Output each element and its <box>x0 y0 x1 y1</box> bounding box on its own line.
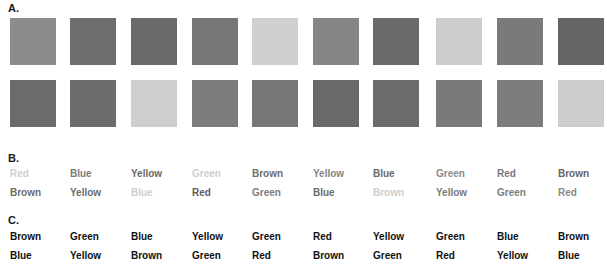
color-patch <box>252 18 298 65</box>
color-patch <box>10 80 56 127</box>
color-patch <box>373 80 419 127</box>
stroop-word: Red <box>192 187 211 198</box>
stroop-word: Blue <box>131 187 153 198</box>
color-patch <box>192 80 238 127</box>
color-word: Yellow <box>70 250 101 261</box>
stroop-word: Brown <box>252 168 283 179</box>
stroop-word: Green <box>497 187 526 198</box>
stroop-word: Yellow <box>313 168 344 179</box>
stroop-word: Yellow <box>70 187 101 198</box>
color-patch <box>10 18 56 65</box>
color-patch <box>497 18 543 65</box>
color-word: Brown <box>10 231 41 242</box>
color-word: Red <box>313 231 332 242</box>
color-patch <box>436 18 482 65</box>
stroop-word: Blue <box>313 187 335 198</box>
color-patch <box>70 18 116 65</box>
stroop-word: Brown <box>373 187 404 198</box>
stroop-word: Green <box>252 187 281 198</box>
stroop-word: Yellow <box>436 187 467 198</box>
color-patch <box>252 80 298 127</box>
section-b-label: B. <box>8 152 19 164</box>
color-word: Green <box>70 231 99 242</box>
color-word: Yellow <box>497 250 528 261</box>
color-word: Blue <box>497 231 519 242</box>
color-word: Blue <box>558 250 580 261</box>
section-a-label: A. <box>8 2 19 14</box>
color-patch <box>497 80 543 127</box>
stroop-word: Red <box>10 168 29 179</box>
color-patch <box>558 18 604 65</box>
color-patch <box>192 18 238 65</box>
stroop-word: Green <box>192 168 221 179</box>
color-patch <box>131 80 177 127</box>
color-word: Red <box>252 250 271 261</box>
stroop-word: Red <box>558 187 577 198</box>
stroop-word: Red <box>497 168 516 179</box>
color-word: Green <box>436 231 465 242</box>
section-c-label: C. <box>8 214 19 226</box>
color-patch <box>373 18 419 65</box>
color-word: Green <box>373 250 402 261</box>
color-word: Yellow <box>192 231 223 242</box>
stroop-word: Blue <box>373 168 395 179</box>
stroop-word: Blue <box>70 168 92 179</box>
color-word: Brown <box>131 250 162 261</box>
stroop-word: Green <box>436 168 465 179</box>
color-word: Brown <box>313 250 344 261</box>
stroop-word: Yellow <box>131 168 162 179</box>
color-word: Blue <box>10 250 32 261</box>
color-patch <box>313 18 359 65</box>
color-word: Red <box>436 250 455 261</box>
color-word: Blue <box>131 231 153 242</box>
color-word: Green <box>252 231 281 242</box>
color-patch <box>131 18 177 65</box>
color-word: Green <box>192 250 221 261</box>
color-patch <box>70 80 116 127</box>
stroop-word: Brown <box>10 187 41 198</box>
stroop-word: Brown <box>558 168 589 179</box>
color-word: Brown <box>558 231 589 242</box>
color-patch <box>436 80 482 127</box>
color-patch <box>558 80 604 127</box>
color-patch <box>313 80 359 127</box>
color-word: Yellow <box>373 231 404 242</box>
